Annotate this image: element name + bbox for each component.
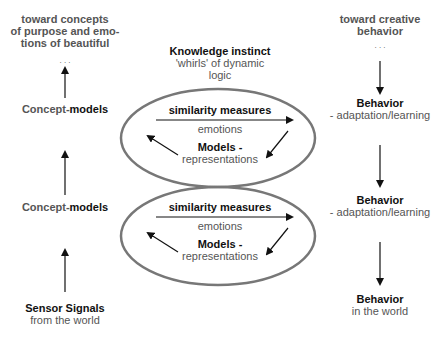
right-behavior-upper: Behavior - adaptation/learning [320, 97, 440, 121]
right-top-note-line-2: behavior [320, 25, 440, 37]
behavior-subtitle: - adaptation/learning [320, 109, 440, 121]
concept-prefix: Concept- [22, 201, 70, 213]
upper-emotions: emotions [150, 123, 290, 135]
sensor-signals-subtitle: from the world [5, 314, 125, 326]
upper-models: Models - [150, 141, 290, 153]
sensor-signals-title: Sensor Signals [5, 302, 125, 314]
left-sensor-signals: Sensor Signals from the world [5, 302, 125, 326]
models-bold: models [70, 201, 109, 213]
right-top-note-line-1: toward creative [320, 13, 440, 25]
left-top-note: toward concepts of purpose and emo- tion… [5, 13, 125, 49]
knowledge-instinct-label: Knowledge instinct 'whirls' of dynamic l… [150, 45, 290, 81]
left-top-note-line-1: toward concepts [5, 13, 125, 25]
right-top-note: toward creative behavior [320, 13, 440, 37]
right-ellipsis: . . . [360, 40, 400, 52]
lower-similarity-measures: similarity measures [150, 201, 290, 213]
behavior-subtitle: - adaptation/learning [320, 206, 440, 218]
right-behavior-world: Behavior in the world [320, 293, 440, 317]
models-bold: models [70, 103, 109, 115]
behavior-world-title: Behavior [320, 293, 440, 305]
left-ellipsis: . . . [45, 55, 85, 67]
behavior-world-subtitle: in the world [320, 305, 440, 317]
left-top-note-line-2: of purpose and emo- [5, 25, 125, 37]
lower-representations: representations [150, 250, 290, 262]
upper-representations: representations [150, 153, 290, 165]
lower-emotions: emotions [150, 220, 290, 232]
left-concept-models-upper: Concept-models [5, 103, 125, 115]
right-behavior-middle: Behavior - adaptation/learning [320, 194, 440, 218]
knowledge-instinct-subtitle-1: 'whirls' of dynamic [150, 57, 290, 69]
left-concept-models-lower: Concept-models [5, 201, 125, 213]
knowledge-instinct-title: Knowledge instinct [150, 45, 290, 57]
knowledge-instinct-subtitle-2: logic [150, 69, 290, 81]
lower-models: Models - [150, 238, 290, 250]
left-top-note-line-3: tions of beautiful [5, 37, 125, 49]
behavior-title: Behavior [320, 97, 440, 109]
concept-prefix: Concept- [22, 103, 70, 115]
upper-similarity-measures: similarity measures [150, 104, 290, 116]
behavior-title: Behavior [320, 194, 440, 206]
